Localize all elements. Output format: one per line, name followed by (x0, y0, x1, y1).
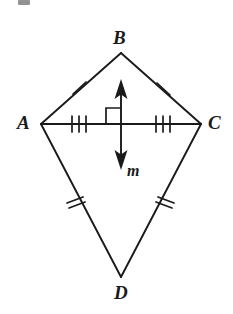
geometry-figure: A B C D m (0, 0, 233, 314)
top-edge-artifact (18, 0, 30, 5)
segment-AD (41, 124, 121, 277)
vertex-label-b: B (113, 28, 126, 47)
tick-mark-BC (157, 83, 170, 95)
segment-BC (121, 53, 201, 124)
right-angle-icon (106, 108, 121, 124)
vertex-label-c: C (208, 113, 221, 132)
vertex-label-a: A (17, 113, 30, 132)
vertex-label-d: D (114, 283, 128, 302)
segment-CD (121, 124, 201, 277)
tick-mark-AB (73, 82, 86, 94)
line-label-m: m (127, 163, 139, 179)
segment-AB (41, 53, 121, 124)
tick-marks-AD (67, 197, 85, 208)
